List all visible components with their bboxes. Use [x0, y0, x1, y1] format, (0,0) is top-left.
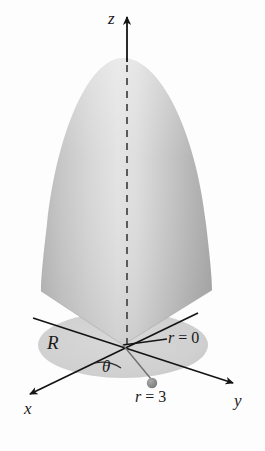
- x-axis-label: x: [24, 400, 32, 417]
- r-three-variable: r: [135, 388, 141, 405]
- figure-canvas: [0, 0, 265, 451]
- z-axis-label: z: [108, 10, 115, 27]
- r-equals-three-label: r = 3: [135, 389, 166, 405]
- r-equals-zero-label: r = 0: [168, 330, 199, 346]
- caption-clip-region: the point nearest to R: [0, 433, 265, 451]
- figure-container: z x y R θ r = 0 r = 3 the point nearest …: [0, 0, 265, 451]
- r-zero-value: 0: [191, 329, 199, 346]
- r-three-value: 3: [158, 388, 166, 405]
- y-axis-label: y: [234, 392, 242, 409]
- r-zero-operator: =: [178, 329, 187, 346]
- r-zero-variable: r: [168, 329, 174, 346]
- theta-label: θ: [102, 358, 110, 375]
- r-three-operator: =: [145, 388, 154, 405]
- region-label-R: R: [47, 333, 59, 352]
- point-marker-dot: [147, 378, 157, 388]
